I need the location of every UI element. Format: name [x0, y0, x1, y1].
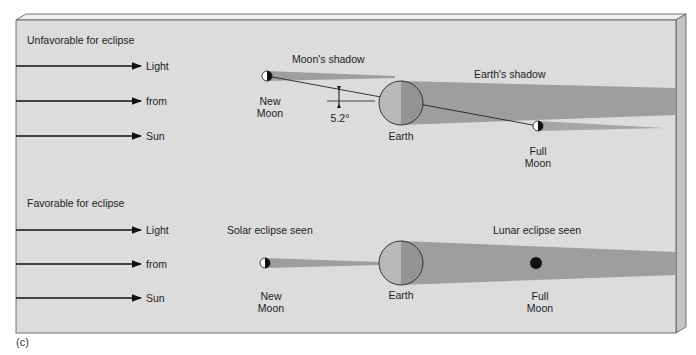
full-moon-label-line1: Full — [525, 145, 551, 157]
angle-label: 5.2° — [331, 112, 350, 124]
full-moon-label-line2: Moon — [527, 302, 553, 314]
bottom-full-moon-eclipsed — [530, 257, 542, 269]
moon-shadow-label: Moon's shadow — [292, 53, 365, 65]
new-moon-label-line1: New — [257, 95, 283, 107]
panel-top-bevel — [16, 14, 686, 20]
bottom-earth — [379, 241, 423, 285]
panel-side — [676, 14, 686, 333]
top-full-moon — [533, 121, 543, 131]
new-moon-label-line1: New — [258, 290, 284, 302]
bottom-arrow-label-sun: Sun — [146, 292, 165, 304]
lunar-eclipse-label: Lunar eclipse seen — [493, 224, 581, 236]
earth-shadow-label: Earth's shadow — [474, 68, 545, 80]
bottom-arrow-label-from: from — [146, 258, 167, 270]
bottom-new-moon — [260, 258, 270, 268]
top-heading: Unfavorable for eclipse — [27, 34, 134, 46]
figure-tag: (c) — [16, 336, 29, 348]
top-arrow-label-sun: Sun — [146, 130, 165, 142]
top-new-moon — [262, 71, 272, 81]
top-earth — [379, 81, 423, 125]
bottom-earth-label: Earth — [388, 289, 413, 301]
new-moon-label-line2: Moon — [258, 302, 284, 314]
full-moon-label-line1: Full — [527, 290, 553, 302]
top-new-moon-label: New Moon — [257, 95, 283, 119]
bottom-new-moon-label: New Moon — [258, 290, 284, 314]
top-arrow-label-light: Light — [146, 60, 169, 72]
top-arrow-label-from: from — [146, 95, 167, 107]
full-moon-label-line2: Moon — [525, 157, 551, 169]
bottom-heading: Favorable for eclipse — [27, 197, 124, 209]
top-full-moon-label: Full Moon — [525, 145, 551, 169]
bottom-arrow-label-light: Light — [146, 224, 169, 236]
bottom-full-moon-label: Full Moon — [527, 290, 553, 314]
new-moon-label-line2: Moon — [257, 107, 283, 119]
solar-eclipse-label: Solar eclipse seen — [227, 224, 313, 236]
top-earth-label: Earth — [388, 130, 413, 142]
panel-face — [16, 20, 676, 333]
